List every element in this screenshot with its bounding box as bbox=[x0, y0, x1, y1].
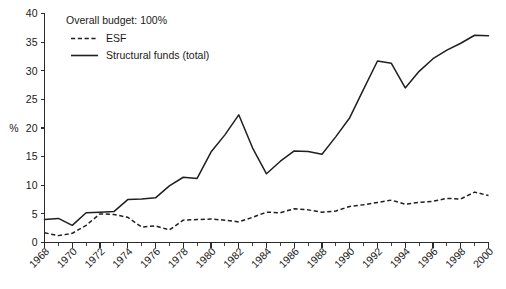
x-axis-tick-label: 1988 bbox=[304, 245, 329, 270]
legend-label: Structural funds (total) bbox=[106, 49, 209, 61]
y-axis-title: % bbox=[9, 122, 18, 134]
series-line-structural-funds-total bbox=[45, 35, 489, 225]
x-axis-tick-label: 1998 bbox=[443, 245, 468, 270]
x-axis-tick-label: 1970 bbox=[54, 245, 79, 270]
y-axis-tick-label: 20 bbox=[26, 122, 38, 134]
x-axis-tick-label: 1984 bbox=[248, 245, 273, 270]
data-series-group bbox=[45, 35, 489, 235]
y-axis-tick-label: 0 bbox=[32, 236, 38, 248]
x-axis-tick-label: 1968 bbox=[26, 245, 51, 270]
x-axis-tick-label: 1992 bbox=[359, 245, 384, 270]
y-axis-tick-label: 35 bbox=[26, 36, 38, 48]
legend-label: ESF bbox=[106, 32, 126, 44]
x-axis-tick-label: 1978 bbox=[165, 245, 190, 270]
y-axis: 0510152025303540% bbox=[9, 7, 44, 248]
x-axis-tick-label: 2000 bbox=[470, 245, 495, 270]
y-axis-tick-label: 10 bbox=[26, 179, 38, 191]
x-axis-tick-label: 1982 bbox=[221, 245, 246, 270]
y-axis-tick-label: 15 bbox=[26, 150, 38, 162]
chart-container: 0510152025303540% 1968197019721974197619… bbox=[0, 0, 506, 289]
y-axis-tick-label: 5 bbox=[32, 208, 38, 220]
x-axis: 1968197019721974197619781980198219841986… bbox=[26, 243, 495, 270]
chart-legend: Overall budget: 100%ESFStructural funds … bbox=[66, 14, 209, 61]
legend-annotation: Overall budget: 100% bbox=[66, 14, 167, 26]
series-line-esf bbox=[45, 192, 489, 236]
x-axis-tick-label: 1994 bbox=[387, 245, 412, 270]
y-axis-tick-label: 25 bbox=[26, 93, 38, 105]
x-axis-tick-label: 1986 bbox=[276, 245, 301, 270]
line-chart: 0510152025303540% 1968197019721974197619… bbox=[0, 0, 506, 289]
x-axis-tick-label: 1980 bbox=[193, 245, 218, 270]
x-axis-tick-label: 1996 bbox=[415, 245, 440, 270]
x-axis-tick-label: 1974 bbox=[110, 245, 135, 270]
y-axis-tick-label: 30 bbox=[26, 65, 38, 77]
x-axis-tick-label: 1976 bbox=[137, 245, 162, 270]
x-axis-tick-label: 1990 bbox=[332, 245, 357, 270]
x-axis-tick-label: 1972 bbox=[82, 245, 107, 270]
y-axis-tick-label: 40 bbox=[26, 7, 38, 19]
